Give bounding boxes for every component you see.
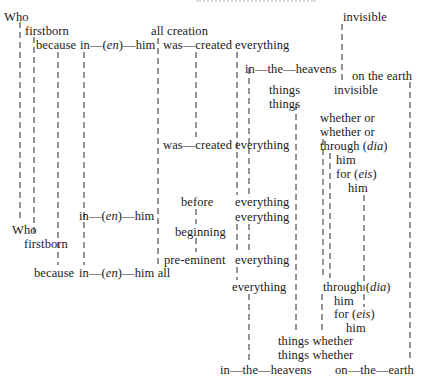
- diagram-word: firstborn: [24, 237, 68, 251]
- diagram-word: Who: [4, 10, 29, 24]
- diagram-word: whether or: [320, 125, 375, 139]
- diagram-word: in—(en)—him: [79, 209, 154, 223]
- diagram-word: through (dia): [320, 139, 388, 153]
- diagram-word: through (dia): [323, 280, 391, 294]
- diagram-word: in—(en)—him: [80, 38, 155, 52]
- diagram-word: was—created: [163, 138, 232, 152]
- diagram-word: Who: [12, 223, 37, 237]
- diagram-word: because: [34, 266, 74, 280]
- diagram-word: was—created: [163, 38, 232, 52]
- diagram-word: everything: [235, 138, 289, 152]
- diagram-word: for (eis): [334, 307, 375, 321]
- diagram-word: because: [36, 38, 76, 52]
- diagram-word: firstborn: [25, 24, 69, 38]
- diagram-word: all creation: [151, 24, 208, 38]
- diagram-word: on—the—earth: [335, 363, 414, 377]
- diagram-word: things: [269, 83, 300, 97]
- sentence-diagram: Whofirstbornbecausein—(en)—himall creati…: [0, 0, 427, 382]
- diagram-word: him: [346, 321, 366, 335]
- diagram-word: pre-eminent: [164, 253, 226, 267]
- diagram-word: everything: [235, 195, 289, 209]
- diagram-word: everything: [235, 253, 289, 267]
- diagram-word: invisible: [343, 10, 387, 24]
- diagram-word: everything: [235, 210, 289, 224]
- diagram-word: beginning: [175, 225, 226, 239]
- diagram-word: in—the—heavens: [220, 363, 312, 377]
- diagram-word: in—(en)—him all: [79, 266, 170, 280]
- diagram-word: things whether: [278, 334, 353, 348]
- diagram-word: him: [336, 153, 356, 167]
- diagram-word: whether or: [320, 111, 375, 125]
- diagram-word: things whether: [278, 348, 353, 362]
- diagram-word: everything: [235, 38, 289, 52]
- diagram-word: for (eis): [336, 167, 377, 181]
- diagram-word: him: [334, 294, 354, 308]
- diagram-word: in—the—heavens: [245, 62, 337, 76]
- diagram-word: invisible: [334, 83, 378, 97]
- diagram-word: before: [181, 195, 214, 209]
- diagram-word: him: [348, 181, 368, 195]
- diagram-word: things: [269, 97, 300, 111]
- diagram-word: everything: [232, 280, 286, 294]
- diagram-word: on the earth: [352, 69, 412, 83]
